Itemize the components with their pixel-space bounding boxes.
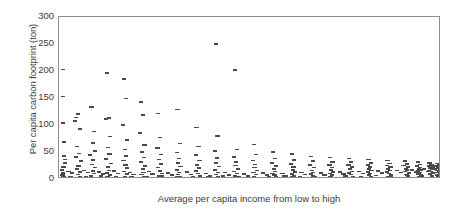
data-point <box>90 177 94 178</box>
data-point <box>225 177 229 178</box>
data-point <box>274 165 278 167</box>
data-point <box>213 150 217 152</box>
data-point <box>123 149 127 151</box>
data-point <box>109 163 113 165</box>
data-point <box>141 114 145 116</box>
data-point <box>327 164 331 166</box>
data-point <box>176 162 180 164</box>
data-point <box>393 177 397 178</box>
data-point <box>143 165 147 167</box>
data-point <box>378 177 382 178</box>
data-point <box>328 157 332 159</box>
data-point <box>401 165 405 167</box>
data-point <box>293 177 297 178</box>
data-point <box>191 176 195 178</box>
data-point <box>385 177 389 178</box>
data-point <box>291 166 295 168</box>
y-tick-label: 100 <box>22 119 54 129</box>
data-point <box>160 175 164 177</box>
data-point <box>129 176 133 178</box>
data-point <box>108 136 112 138</box>
data-point <box>416 177 420 178</box>
data-point <box>361 173 365 175</box>
data-point <box>61 69 65 71</box>
x-axis-title: Average per capita income from low to hi… <box>58 193 440 204</box>
data-point <box>347 177 351 178</box>
data-point <box>270 162 274 164</box>
data-point <box>68 176 72 178</box>
data-point <box>303 174 307 176</box>
y-tick-label: 250 <box>22 38 54 48</box>
data-point <box>150 173 154 175</box>
data-point <box>232 156 236 158</box>
data-point <box>88 154 92 156</box>
data-point <box>252 176 256 178</box>
data-point <box>62 155 66 157</box>
data-point <box>294 177 298 178</box>
data-point <box>106 166 110 168</box>
data-point <box>91 159 95 161</box>
data-point <box>175 109 179 111</box>
data-point <box>420 175 424 177</box>
data-point <box>256 177 260 178</box>
data-point <box>246 175 250 177</box>
data-point <box>367 177 371 178</box>
data-point <box>194 170 198 172</box>
data-point <box>104 158 108 160</box>
plot-area <box>58 16 440 178</box>
data-point <box>86 172 90 174</box>
data-point <box>271 177 275 178</box>
data-point <box>328 176 332 178</box>
data-point <box>359 176 363 178</box>
data-point <box>312 167 316 169</box>
data-point <box>196 146 200 148</box>
data-point <box>185 171 189 173</box>
data-point <box>343 175 347 177</box>
data-point <box>142 157 146 159</box>
data-point <box>140 177 144 178</box>
data-point <box>309 177 313 178</box>
data-point <box>233 69 237 71</box>
data-point <box>240 177 244 178</box>
data-point <box>349 161 353 163</box>
data-point <box>221 175 225 177</box>
data-point <box>177 158 181 160</box>
data-point <box>236 176 240 178</box>
data-point <box>61 96 65 98</box>
data-point <box>234 161 238 163</box>
data-point <box>164 177 168 178</box>
data-point <box>170 174 174 176</box>
data-point <box>147 171 151 173</box>
data-point <box>424 177 428 178</box>
data-point <box>370 177 374 178</box>
data-point <box>91 170 95 172</box>
data-point <box>116 173 120 175</box>
y-tick-label: 300 <box>22 11 54 21</box>
data-point <box>405 174 409 176</box>
data-point <box>236 168 240 170</box>
data-point <box>78 171 82 173</box>
data-point <box>121 160 125 162</box>
data-point <box>60 169 64 171</box>
data-point <box>112 170 116 172</box>
data-point <box>194 177 198 178</box>
data-point <box>403 160 407 162</box>
data-point <box>157 159 161 161</box>
data-point <box>431 177 435 178</box>
data-point <box>389 175 393 177</box>
data-point <box>195 164 199 166</box>
data-point <box>215 135 219 137</box>
data-point <box>313 176 317 178</box>
data-point <box>301 177 305 178</box>
data-point <box>90 164 94 166</box>
data-point <box>114 176 118 178</box>
data-point <box>273 158 277 160</box>
data-point <box>439 177 440 178</box>
data-point <box>426 171 430 173</box>
data-point <box>63 159 67 161</box>
data-point <box>233 165 237 167</box>
data-point <box>178 143 182 145</box>
data-point <box>104 118 108 120</box>
data-point <box>139 161 143 163</box>
data-point <box>79 160 83 162</box>
